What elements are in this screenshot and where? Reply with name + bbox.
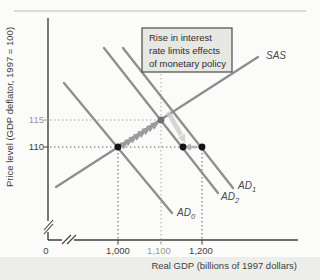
dot-ad1-1200-110 — [199, 144, 206, 151]
callout-line-1: Rise in interest — [149, 32, 212, 43]
ad2-label-base: AD — [220, 191, 235, 202]
x-axis-title: Real GDP (billions of 1997 dollars) — [151, 260, 297, 271]
y-axis-title: Price level (GDP deflator, 1997 = 100) — [4, 27, 15, 187]
sas-label: SAS — [266, 50, 286, 61]
callout-line-2: rate limits effects — [149, 45, 220, 56]
ad1-label-sub: 1 — [252, 185, 256, 194]
x-tick-label-0: 0 — [43, 245, 48, 256]
ad0-label-base: AD — [176, 207, 191, 218]
callout-box: Rise in interest rate limits effects of … — [142, 28, 232, 72]
ad1-label-base: AD — [237, 180, 252, 191]
ad-sas-monetary-policy-figure: Rise in interest rate limits effects of … — [0, 0, 320, 280]
dot-new-equilibrium-1100-115 — [158, 117, 165, 124]
figure-canvas: Rise in interest rate limits effects of … — [0, 0, 320, 280]
x-tick-label-1100: 1,100 — [147, 245, 171, 256]
y-tick-label-110: 110 — [29, 141, 44, 152]
callout-line-3: of monetary policy — [149, 58, 226, 69]
ad2-label-sub: 2 — [234, 196, 240, 205]
dot-initial-equilibrium-1000-110 — [115, 144, 122, 151]
dot-ad2-1150-110 — [180, 144, 187, 151]
x-tick-label-1000: 1,000 — [106, 245, 130, 256]
x-tick-label-1200: 1,200 — [189, 245, 213, 256]
y-tick-label-115: 115 — [29, 114, 44, 125]
